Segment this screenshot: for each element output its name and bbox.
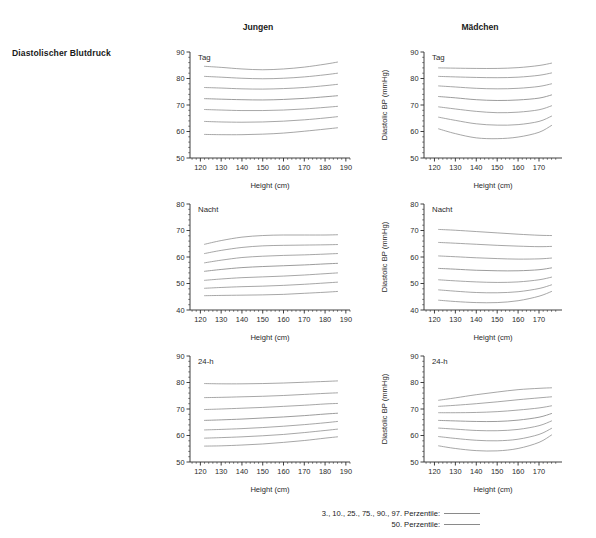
svg-text:120: 120 xyxy=(194,163,206,172)
svg-text:Diastolic BP (mmHg): Diastolic BP (mmHg) xyxy=(380,221,389,292)
svg-text:50: 50 xyxy=(410,458,418,467)
svg-text:70: 70 xyxy=(410,101,418,110)
chart-panel-maedchen-24h: 506070809012013014015016017024-hHeight (… xyxy=(378,346,568,494)
legend: 3., 10., 25., 75., 90., 97. Perzentile: … xyxy=(150,508,480,530)
svg-text:180: 180 xyxy=(319,467,331,476)
svg-text:Nacht: Nacht xyxy=(198,205,219,214)
svg-text:Diastolic BP (mmHg): Diastolic BP (mmHg) xyxy=(380,373,389,444)
svg-text:170: 170 xyxy=(533,467,545,476)
svg-text:120: 120 xyxy=(428,315,440,324)
svg-text:190: 190 xyxy=(340,315,352,324)
svg-text:50: 50 xyxy=(410,279,418,288)
svg-text:24-h: 24-h xyxy=(432,357,448,366)
chart-panel-jungen-nacht: 4050607080120130140150160170180190NachtH… xyxy=(166,194,356,342)
svg-text:90: 90 xyxy=(410,352,418,361)
svg-text:Height (cm): Height (cm) xyxy=(250,181,290,190)
svg-text:160: 160 xyxy=(277,467,289,476)
legend-row-outer-percentiles: 3., 10., 25., 75., 90., 97. Perzentile: xyxy=(150,508,480,519)
svg-text:Height (cm): Height (cm) xyxy=(250,485,290,494)
svg-text:Height (cm): Height (cm) xyxy=(473,333,513,342)
svg-text:130: 130 xyxy=(215,163,227,172)
svg-text:Nacht: Nacht xyxy=(432,205,453,214)
svg-text:140: 140 xyxy=(470,467,482,476)
svg-text:130: 130 xyxy=(449,315,461,324)
svg-text:Height (cm): Height (cm) xyxy=(473,485,513,494)
svg-text:90: 90 xyxy=(176,352,184,361)
svg-text:60: 60 xyxy=(410,431,418,440)
row-label-diastolic: Diastolischer Blutdruck xyxy=(12,48,111,58)
svg-text:80: 80 xyxy=(176,74,184,83)
legend-line-outer-percentiles xyxy=(444,513,480,514)
chart-panel-maedchen-nacht: 4050607080120130140150160170NachtHeight … xyxy=(378,194,568,342)
svg-text:120: 120 xyxy=(428,163,440,172)
svg-text:160: 160 xyxy=(277,315,289,324)
svg-text:130: 130 xyxy=(449,163,461,172)
svg-text:170: 170 xyxy=(533,315,545,324)
svg-text:70: 70 xyxy=(410,226,418,235)
svg-text:150: 150 xyxy=(257,163,269,172)
svg-text:170: 170 xyxy=(533,163,545,172)
svg-text:130: 130 xyxy=(215,467,227,476)
svg-text:50: 50 xyxy=(176,154,184,163)
svg-text:70: 70 xyxy=(176,226,184,235)
legend-line-median xyxy=(444,524,480,525)
svg-text:80: 80 xyxy=(176,378,184,387)
chart-panel-maedchen-tag: 5060708090120130140150160170TagHeight (c… xyxy=(378,42,568,190)
svg-text:160: 160 xyxy=(512,467,524,476)
svg-text:60: 60 xyxy=(176,431,184,440)
svg-text:40: 40 xyxy=(410,306,418,315)
svg-text:Tag: Tag xyxy=(198,53,211,62)
svg-text:190: 190 xyxy=(340,467,352,476)
svg-text:60: 60 xyxy=(176,253,184,262)
svg-text:150: 150 xyxy=(491,315,503,324)
svg-text:130: 130 xyxy=(215,315,227,324)
legend-row-median: 50. Perzentile: xyxy=(150,519,480,530)
svg-text:80: 80 xyxy=(176,200,184,209)
svg-text:120: 120 xyxy=(194,315,206,324)
svg-text:150: 150 xyxy=(491,163,503,172)
svg-text:80: 80 xyxy=(410,378,418,387)
legend-label-outer-percentiles: 3., 10., 25., 75., 90., 97. Perzentile: xyxy=(322,508,440,519)
svg-text:24-h: 24-h xyxy=(198,357,214,366)
svg-text:120: 120 xyxy=(194,467,206,476)
svg-text:60: 60 xyxy=(410,127,418,136)
column-title-jungen: Jungen xyxy=(178,22,338,32)
svg-text:170: 170 xyxy=(298,467,310,476)
svg-text:90: 90 xyxy=(176,48,184,57)
svg-text:130: 130 xyxy=(449,467,461,476)
svg-text:150: 150 xyxy=(257,315,269,324)
svg-text:140: 140 xyxy=(236,467,248,476)
svg-text:60: 60 xyxy=(176,127,184,136)
svg-text:160: 160 xyxy=(277,163,289,172)
svg-text:70: 70 xyxy=(176,405,184,414)
svg-text:Diastolic BP (mmHg): Diastolic BP (mmHg) xyxy=(380,69,389,140)
svg-text:140: 140 xyxy=(236,163,248,172)
svg-text:80: 80 xyxy=(410,200,418,209)
svg-text:50: 50 xyxy=(176,458,184,467)
svg-text:70: 70 xyxy=(176,101,184,110)
svg-text:180: 180 xyxy=(319,315,331,324)
legend-label-median: 50. Perzentile: xyxy=(391,519,440,530)
svg-text:160: 160 xyxy=(512,315,524,324)
svg-text:Height (cm): Height (cm) xyxy=(473,181,513,190)
svg-text:140: 140 xyxy=(470,163,482,172)
svg-text:190: 190 xyxy=(340,163,352,172)
svg-text:150: 150 xyxy=(257,467,269,476)
svg-text:150: 150 xyxy=(491,467,503,476)
svg-text:180: 180 xyxy=(319,163,331,172)
svg-text:60: 60 xyxy=(410,253,418,262)
svg-text:40: 40 xyxy=(176,306,184,315)
svg-text:170: 170 xyxy=(298,315,310,324)
svg-text:90: 90 xyxy=(410,48,418,57)
svg-text:170: 170 xyxy=(298,163,310,172)
column-title-maedchen: Mädchen xyxy=(400,22,560,32)
svg-text:50: 50 xyxy=(176,279,184,288)
svg-text:Tag: Tag xyxy=(432,53,445,62)
svg-text:80: 80 xyxy=(410,74,418,83)
svg-text:120: 120 xyxy=(428,467,440,476)
svg-text:140: 140 xyxy=(236,315,248,324)
svg-text:140: 140 xyxy=(470,315,482,324)
chart-panel-jungen-24h: 506070809012013014015016017018019024-hHe… xyxy=(166,346,356,494)
svg-text:50: 50 xyxy=(410,154,418,163)
svg-text:160: 160 xyxy=(512,163,524,172)
